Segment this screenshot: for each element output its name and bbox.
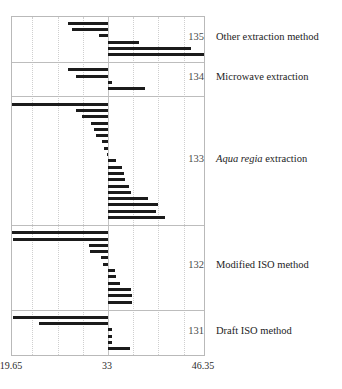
bar: [108, 53, 204, 56]
bar: [108, 347, 130, 350]
bar: [108, 282, 120, 285]
bar: [108, 47, 191, 50]
bar: [107, 153, 109, 156]
bar: [94, 128, 108, 131]
bar: [13, 238, 108, 241]
bar: [108, 203, 158, 206]
bar: [108, 328, 112, 331]
x-tick-33: 33: [102, 360, 112, 371]
bar: [108, 172, 124, 175]
bar: [99, 34, 108, 37]
group-number-135: 135: [178, 31, 204, 42]
method-label-135: Other extraction method: [216, 31, 319, 42]
bar: [39, 322, 108, 325]
bar: [108, 178, 125, 181]
group-number-132: 132: [178, 259, 204, 270]
bar: [82, 115, 108, 118]
group-number-131: 131: [178, 325, 204, 336]
bar: [108, 197, 148, 200]
bar: [108, 210, 156, 213]
bar: [108, 335, 112, 338]
gridline: [158, 17, 160, 355]
bar: [108, 275, 116, 278]
bar: [91, 122, 108, 125]
bar: [108, 185, 129, 188]
bar: [108, 216, 165, 219]
group-separator: [12, 96, 204, 97]
gridline: [58, 17, 60, 355]
group-separator: [12, 225, 204, 226]
group-separator: [12, 310, 204, 311]
group-number-134: 134: [178, 71, 204, 82]
method-label-134: Microwave extraction: [216, 71, 308, 82]
bar: [72, 28, 108, 31]
bar: [68, 68, 108, 71]
bar: [108, 191, 131, 194]
bar: [108, 288, 131, 291]
method-label-133: Aqua regia extraction: [216, 153, 307, 164]
x-tick-46.35: 46.35: [192, 360, 215, 371]
gridline: [133, 17, 135, 355]
gridline: [184, 17, 186, 355]
method-label-italic-part: Aqua regia: [216, 153, 263, 164]
bar: [108, 87, 145, 90]
bar: [103, 263, 108, 266]
bar: [89, 244, 108, 247]
bar: [96, 134, 108, 137]
bar: [108, 341, 112, 344]
bar: [108, 41, 139, 44]
forest-plot-chart: 135134133132131 Other extraction methodM…: [0, 0, 342, 389]
method-label-132: Modified ISO method: [216, 259, 309, 270]
bar: [68, 22, 108, 25]
group-separator: [12, 62, 204, 63]
bar: [108, 269, 115, 272]
gridline: [32, 17, 34, 355]
plot-area: [11, 16, 205, 356]
bar: [108, 294, 132, 297]
bar: [13, 316, 108, 319]
bar: [76, 109, 108, 112]
bar: [104, 147, 108, 150]
bar: [108, 166, 122, 169]
bar: [90, 250, 108, 253]
bar: [12, 231, 108, 234]
bar: [108, 159, 116, 162]
method-label-131: Draft ISO method: [216, 325, 292, 336]
bar: [108, 301, 132, 304]
x-tick-19.65: 19.65: [0, 360, 22, 371]
bar: [108, 81, 112, 84]
group-number-133: 133: [178, 153, 204, 164]
bar: [102, 140, 108, 143]
bar: [76, 75, 108, 78]
bar: [12, 103, 108, 106]
bar: [101, 256, 108, 259]
